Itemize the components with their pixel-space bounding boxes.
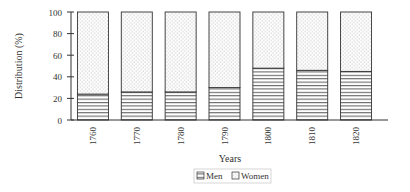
y-tick-label: 80: [53, 29, 63, 39]
y-axis-label: Distribution (%): [13, 33, 25, 99]
bar-men-1770: [121, 92, 152, 120]
x-axis-label: Years: [219, 153, 241, 164]
y-tick-label: 20: [53, 94, 63, 104]
bar-men-1790: [209, 88, 240, 120]
bar-women-1760: [77, 12, 108, 94]
legend-label-women: Women: [241, 171, 269, 181]
legend-swatch-women: [232, 172, 239, 179]
x-tick-label: 1790: [220, 127, 230, 146]
bar-women-1790: [209, 12, 240, 88]
bar-women-1800: [253, 12, 284, 68]
bar-men-1820: [341, 71, 372, 120]
x-tick-label: 1800: [263, 127, 273, 146]
y-tick-label: 0: [58, 116, 63, 126]
stacked-bar-chart: 0204060801001760177017801790180018101820…: [0, 0, 410, 192]
x-tick-label: 1820: [351, 127, 361, 146]
y-tick-label: 100: [49, 8, 63, 18]
bar-men-1800: [253, 68, 284, 120]
bar-men-1760: [77, 94, 108, 120]
x-tick-label: 1770: [132, 127, 142, 146]
bar-women-1780: [165, 12, 196, 92]
y-tick-label: 40: [53, 72, 63, 82]
y-tick-label: 60: [53, 51, 63, 61]
x-tick-label: 1760: [88, 127, 98, 146]
legend: Men Women: [194, 169, 271, 183]
bars: [77, 12, 371, 120]
legend-label-men: Men: [206, 171, 223, 181]
legend-swatch-men: [197, 172, 204, 179]
bar-women-1810: [297, 12, 328, 70]
bar-men-1780: [165, 92, 196, 120]
x-tick-label: 1810: [307, 127, 317, 146]
bar-women-1820: [341, 12, 372, 71]
bar-women-1770: [121, 12, 152, 92]
x-tick-label: 1780: [176, 127, 186, 146]
bar-men-1810: [297, 70, 328, 120]
